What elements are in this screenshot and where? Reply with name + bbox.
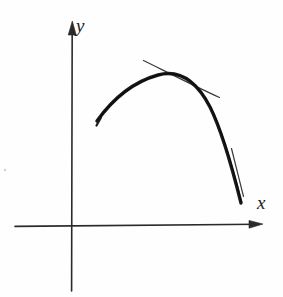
diagram-svg bbox=[0, 0, 283, 297]
y-axis-line bbox=[72, 28, 73, 291]
y-axis bbox=[68, 21, 76, 291]
curve-ink-texture bbox=[98, 74, 242, 203]
paper-speck bbox=[4, 169, 6, 171]
curve-group bbox=[97, 74, 242, 203]
x-axis bbox=[15, 220, 263, 228]
x-axis-label: x bbox=[257, 193, 265, 212]
x-axis-line bbox=[15, 224, 258, 226]
tangent-at-apex bbox=[144, 61, 220, 98]
y-axis-label: y bbox=[76, 16, 84, 35]
concave-down-curve bbox=[97, 74, 241, 203]
y-axis-arrowhead bbox=[68, 21, 76, 35]
figure-canvas: y x bbox=[0, 0, 283, 297]
x-axis-arrowhead bbox=[249, 220, 263, 228]
